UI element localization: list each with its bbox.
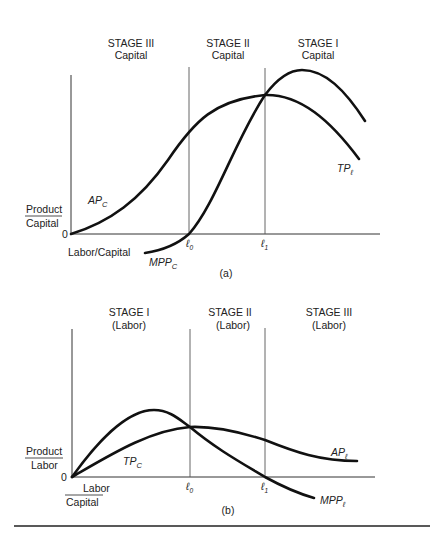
caption-b: (b)	[222, 504, 235, 516]
label-mpp-c: MPPC	[149, 256, 178, 271]
panel-a: STAGE III Capital STAGE II Capital STAGE…	[25, 37, 380, 279]
stage-b-2-subtitle: (Labor)	[216, 319, 250, 331]
curve-b-average-product	[72, 427, 357, 477]
stage-a-3-title: STAGE III	[108, 37, 154, 49]
y-label-a-numerator: Product	[26, 203, 62, 215]
label-tp-l: TPℓ	[337, 162, 353, 177]
y-label-a-denominator: Capital	[26, 217, 59, 229]
caption-a: (a)	[220, 267, 233, 279]
stage-a-1-subtitle: Capital	[302, 49, 335, 61]
marker-b-l1: ℓ1	[260, 480, 268, 494]
production-stages-diagram: STAGE III Capital STAGE II Capital STAGE…	[0, 0, 444, 536]
marker-a-l0: ℓ0	[185, 237, 193, 251]
label-tp-c: TPC	[123, 455, 142, 470]
panel-b: STAGE I (Labor) STAGE II (Labor) STAGE I…	[25, 306, 375, 516]
curve-a-average-product	[71, 95, 359, 234]
origin-a: 0	[62, 228, 68, 240]
label-ap-c: APC	[87, 194, 108, 209]
x-label-b-numerator: Labor	[83, 482, 110, 494]
y-label-b-numerator: Product	[26, 445, 62, 457]
stage-a-2-title: STAGE II	[206, 37, 250, 49]
stage-b-2-title: STAGE II	[208, 306, 252, 318]
y-label-b-denominator: Labor	[31, 459, 58, 471]
stage-b-3-title: STAGE III	[306, 306, 352, 318]
stage-b-1-subtitle: (Labor)	[112, 319, 146, 331]
stage-a-3-subtitle: Capital	[115, 49, 148, 61]
marker-b-l0: ℓ0	[185, 480, 193, 494]
stage-b-1-title: STAGE I	[109, 306, 150, 318]
stage-a-2-subtitle: Capital	[212, 49, 245, 61]
stage-b-3-subtitle: (Labor)	[312, 319, 346, 331]
x-label-a: Labor/Capital	[68, 246, 130, 258]
marker-a-l1: ℓ1	[260, 237, 268, 251]
label-mpp-l: MPPℓ	[320, 494, 346, 509]
origin-b: 0	[61, 471, 67, 483]
stage-a-1-title: STAGE I	[298, 37, 339, 49]
x-label-b-denominator: Capital	[66, 496, 99, 508]
